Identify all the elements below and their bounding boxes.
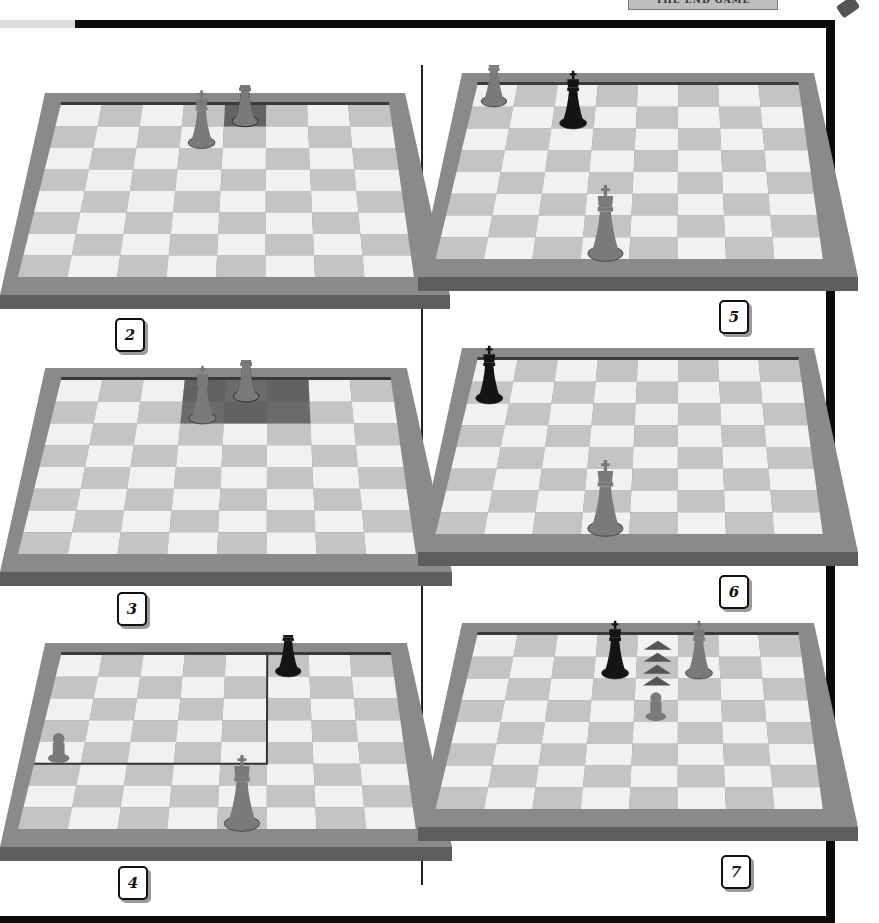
chessboard	[418, 340, 858, 582]
diagram-number-2: 2	[115, 318, 145, 352]
frame-top-gray	[0, 20, 75, 28]
diagram-4	[0, 635, 452, 877]
chessboard	[418, 615, 858, 857]
section-title: THE END GAME	[628, 0, 778, 10]
diagram-number-3: 3	[117, 592, 147, 626]
chessboard	[0, 635, 452, 877]
diagram-2	[0, 85, 450, 325]
chessboard	[418, 65, 858, 307]
frame-top-border	[75, 20, 835, 28]
frame-bottom-border	[0, 916, 835, 923]
diagram-number-7: 7	[721, 855, 751, 889]
diagram-number-4: 4	[118, 866, 148, 900]
corner-tab-icon	[836, 0, 860, 18]
diagram-5	[418, 65, 858, 307]
diagram-number-5: 5	[719, 300, 749, 334]
diagram-number-6: 6	[719, 575, 749, 609]
chessboard	[0, 360, 452, 602]
diagram-6	[418, 340, 858, 582]
chessboard	[0, 85, 450, 325]
diagram-7	[418, 615, 858, 857]
diagram-3	[0, 360, 452, 602]
